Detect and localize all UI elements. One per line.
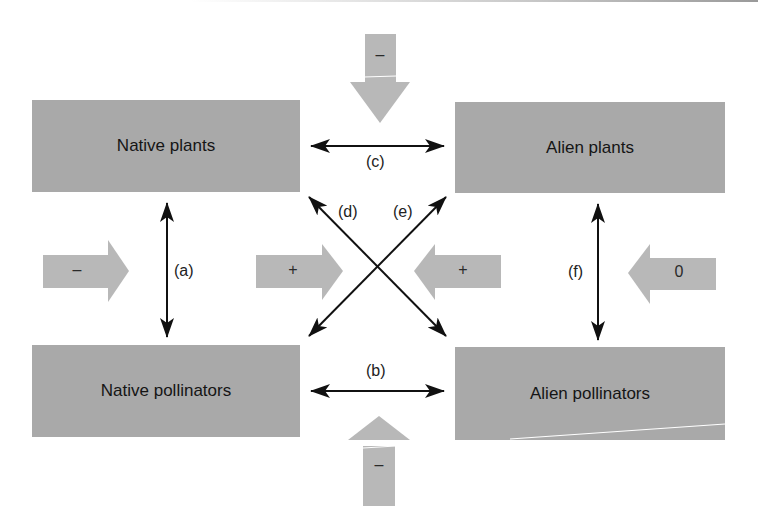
effect-center-left-symbol: + [278,261,308,279]
interaction-label-e: (e) [393,203,413,221]
interaction-label-a: (a) [174,262,194,280]
interaction-label-d: (d) [338,203,358,221]
interaction-label-f: (f) [568,263,583,281]
effect-center-right-symbol: + [448,261,478,279]
effect-top-symbol: – [365,46,395,64]
effect-bottom-symbol: – [364,456,394,474]
interaction-label-b: (b) [366,362,386,380]
effect-left-symbol: – [62,261,92,279]
interaction-label-c: (c) [366,153,385,171]
scan-artifact-line [510,424,725,439]
effect-right-symbol: 0 [664,263,694,281]
